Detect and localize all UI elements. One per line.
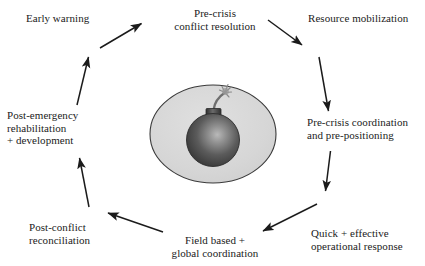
node-label-field-based-global-coordination: Field based + global coordination [150,234,280,259]
arrow-coordination-to-quick [326,151,331,191]
label-line: conflict resolution [158,20,272,33]
arrow-post-emergency-to-early-warning [77,57,89,105]
label-line: Post-conflict [29,221,90,234]
label-line: Quick + effective [311,227,403,240]
label-line: Post-emergency [7,109,78,122]
node-label-quick-effective-operational-response: Quick + effective operational response [311,227,403,252]
node-label-early-warning: Early warning [26,12,89,25]
fuse-spark-core-icon [222,88,229,95]
node-label-pre-crisis-conflict-resolution: Pre-crisis conflict resolution [158,7,272,32]
label-line: Field based + [150,234,280,247]
label-line: Pre-crisis coordination [307,116,408,129]
arrow-quick-to-field-based [263,204,317,231]
node-label-post-emergency-rehabilitation: Post-emergency rehabilitation + developm… [7,109,78,147]
arrow-early-warning-to-pre-crisis [100,24,142,49]
bomb-body-icon [187,114,240,167]
label-line: reconciliation [29,234,90,247]
label-line: operational response [311,240,403,253]
label-line: Pre-crisis [158,7,272,20]
node-label-resource-mobilization: Resource mobilization [308,12,408,25]
node-label-pre-crisis-coordination: Pre-crisis coordination and pre-position… [307,116,408,141]
label-line: Early warning [26,12,89,25]
bomb-emblem [146,82,280,186]
node-label-post-conflict-reconciliation: Post-conflict reconciliation [29,221,90,246]
arrow-pre-crisis-to-resource [268,20,302,45]
arrow-post-conflict-to-post-emergency [80,158,90,207]
label-line: rehabilitation [7,122,78,135]
label-line: global coordination [150,247,280,260]
cycle-diagram: Early warning Pre-crisis conflict resolu… [0,0,425,266]
arrow-resource-to-coordination [319,57,329,111]
label-line: and pre-positioning [307,129,408,142]
label-line: Resource mobilization [308,12,408,25]
arrow-field-based-to-post-conflict [108,213,163,232]
label-line: + development [7,134,78,147]
